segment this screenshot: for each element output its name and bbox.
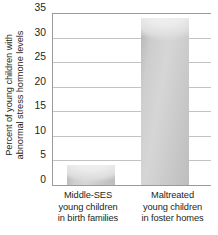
y-tick-label-20: 20	[0, 76, 46, 87]
y-tick-label-10: 10	[0, 125, 46, 136]
y-tick-label-35: 35	[0, 2, 46, 13]
y-tick-label-15: 15	[0, 100, 46, 111]
bar-maltreated-foster	[141, 18, 189, 185]
x-category-label-1-line-1: Middle-SES	[48, 190, 128, 202]
plot-area	[52, 13, 211, 186]
x-category-label-2-line-2: young children	[129, 202, 216, 214]
x-category-label-1-line-2: young children	[48, 202, 128, 214]
x-category-label-1-line-3: in birth families	[48, 213, 128, 225]
bar-chart: Percent of young children with abnormal …	[0, 0, 218, 235]
x-category-label-2-line-1: Maltreated	[129, 190, 216, 202]
y-tick-label-5: 5	[0, 149, 46, 160]
y-axis-title-line-2: abnormal stress hormone levels	[15, 31, 26, 160]
gridline-35	[53, 13, 211, 14]
y-tick-label-30: 30	[0, 27, 46, 38]
x-category-label-2-line-3: in foster homes	[129, 213, 216, 225]
y-tick-label-0: 0	[0, 174, 46, 185]
y-tick-label-25: 25	[0, 51, 46, 62]
x-category-label-2: Maltreated young children in foster home…	[129, 190, 216, 225]
x-category-label-1: Middle-SES young children in birth famil…	[48, 190, 128, 225]
y-axis-title-line-1: Percent of young children with	[4, 31, 15, 160]
bar-middle-ses	[67, 165, 115, 185]
bar-dome-highlight	[67, 165, 115, 185]
bar-dome-highlight	[141, 18, 189, 44]
